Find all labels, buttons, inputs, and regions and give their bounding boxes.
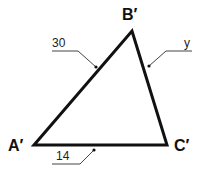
side-label-ac: 14 — [56, 149, 70, 163]
vertex-label-c: C′ — [174, 137, 190, 154]
side-label-ab: 30 — [52, 36, 66, 50]
vertex-label-a: A′ — [8, 137, 24, 154]
vertex-label-b: B′ — [122, 6, 138, 23]
leader-side-ab — [52, 51, 98, 69]
leader-side-bc — [147, 51, 192, 68]
side-label-bc: y — [184, 36, 190, 50]
triangle-diagram: B′ A′ C′ 30 y 14 — [0, 0, 209, 181]
